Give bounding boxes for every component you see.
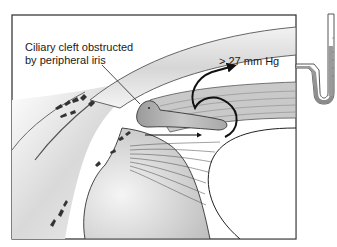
eye-angle-diagram bbox=[0, 0, 337, 247]
cleft-annotation-line2: by peripheral iris bbox=[25, 54, 133, 67]
cleft-annotation: Ciliary cleft obstructed by peripheral i… bbox=[25, 41, 133, 67]
pressure-annotation: > 27 mm Hg bbox=[219, 55, 279, 68]
manometer bbox=[296, 14, 334, 104]
cleft-annotation-line1: Ciliary cleft obstructed bbox=[25, 41, 133, 54]
